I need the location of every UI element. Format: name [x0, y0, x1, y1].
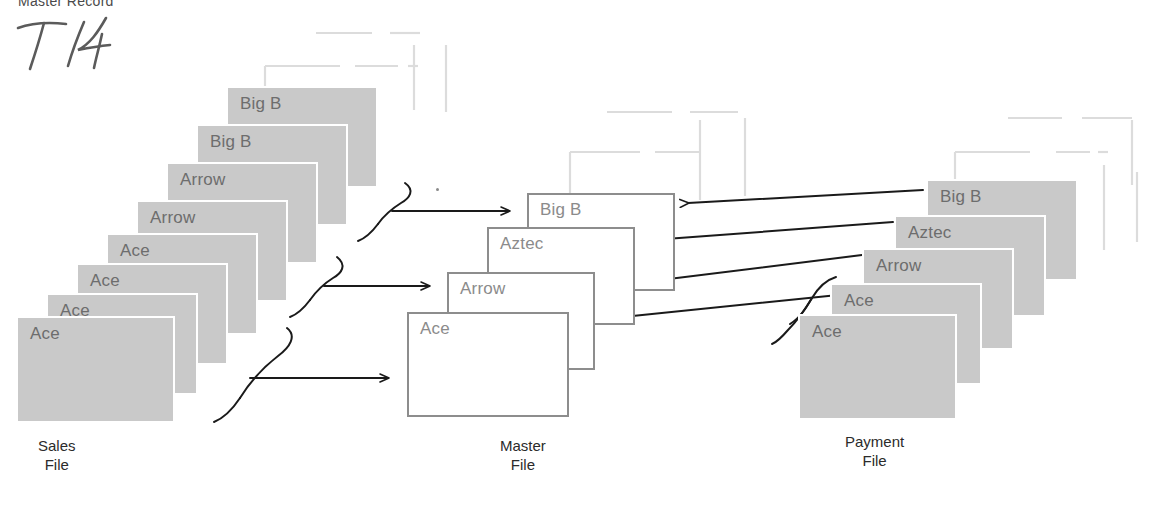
record-card-label: Arrow [460, 279, 505, 299]
arrow-payment-to-master-aztec [652, 222, 893, 240]
record-card-label: Aztec [908, 223, 952, 243]
brace-sales-bottom [240, 328, 292, 398]
brace-sales-top-tail [358, 224, 378, 241]
record-card-label: Big B [940, 187, 982, 207]
record-card-label: Arrow [150, 208, 195, 228]
record-card-label: Ace [90, 271, 120, 291]
record-card-label: Big B [210, 132, 252, 152]
brace-sales-bottom-tail [214, 398, 240, 422]
record-card: Ace [18, 318, 173, 421]
file-label-payment-file: Payment File [845, 433, 904, 471]
file-label-master-file: Master File [500, 437, 546, 475]
diagram-canvas: Master Record [0, 0, 1162, 506]
ghost-bracket-group-middle [570, 112, 745, 200]
record-card-label: Arrow [876, 256, 921, 276]
record-card: Ace [407, 312, 569, 417]
record-card-label: Big B [240, 94, 282, 114]
brace-sales-top [378, 183, 411, 224]
brace-sales-middle [310, 257, 343, 300]
brace-sales-middle-tail [290, 300, 310, 317]
record-card-label: Arrow [180, 170, 225, 190]
record-card-label: Aztec [500, 234, 544, 254]
record-card-label: Ace [120, 241, 150, 261]
record-card-label: Big B [540, 200, 582, 220]
record-card-label: Ace [844, 291, 874, 311]
record-card-label: Ace [812, 322, 842, 342]
record-card: Ace [800, 316, 955, 418]
arrow-payment-to-master-bigb [688, 190, 923, 203]
record-card-label: Ace [420, 319, 450, 339]
file-label-sales-file: Sales File [38, 437, 76, 475]
record-card-label: Ace [30, 324, 60, 344]
